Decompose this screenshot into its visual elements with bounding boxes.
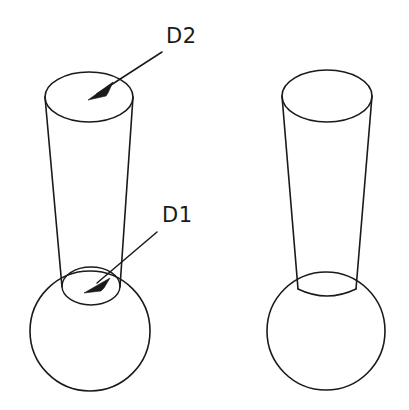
- d2-arrow-head: [88, 82, 113, 100]
- right-cone-right-wall: [356, 96, 372, 289]
- right-cone-top-ellipse: [282, 70, 372, 122]
- left-cone-base-ellipse: [62, 267, 120, 305]
- unlabelled-figure: [267, 70, 385, 390]
- right-cone-base-arc: [298, 289, 356, 296]
- d1-leader-line: [97, 232, 157, 283]
- labelled-figure: D2 D1: [30, 24, 197, 391]
- right-sphere-outline: [267, 272, 385, 390]
- d1-arrow-head: [84, 278, 110, 293]
- technical-drawing: D2 D1: [0, 0, 409, 410]
- right-cone-left-wall: [282, 96, 298, 289]
- diagram-canvas: D2 D1: [0, 0, 409, 410]
- callout-label-d1: D1: [162, 203, 193, 227]
- callout-label-d2: D2: [166, 24, 197, 48]
- left-sphere-outline: [30, 271, 150, 391]
- left-cone-left-wall: [45, 97, 62, 287]
